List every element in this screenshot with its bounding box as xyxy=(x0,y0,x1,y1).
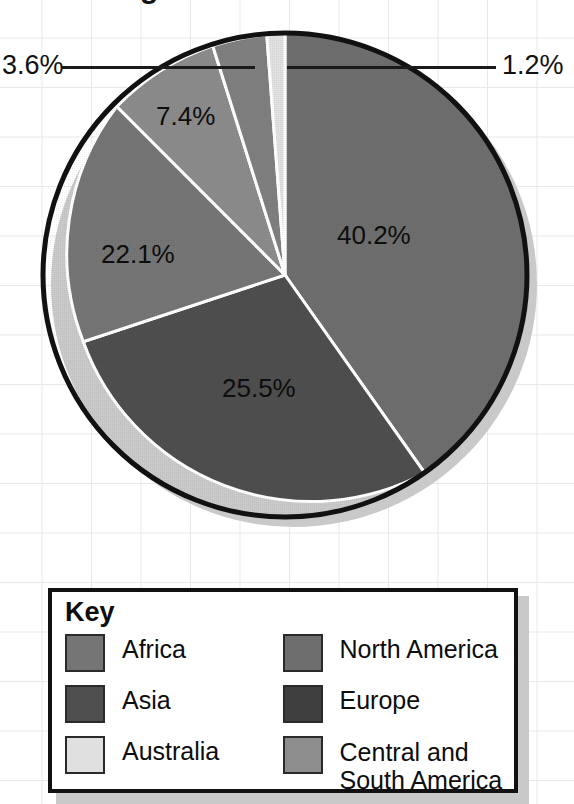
legend: Key Africa Asia Australia North America xyxy=(48,588,518,793)
legend-label-central-south-america: Central andSouth America xyxy=(340,735,503,794)
legend-item-australia[interactable]: Australia xyxy=(65,735,283,777)
pie-label-asia: 7.4% xyxy=(156,101,215,132)
legend-swatch-australia xyxy=(65,736,105,774)
legend-swatch-africa xyxy=(65,634,105,672)
leader-line-australia xyxy=(287,66,496,69)
legend-item-africa[interactable]: Africa xyxy=(65,633,283,675)
legend-item-north-america[interactable]: North America xyxy=(283,633,514,675)
chart-title: ...g ross national income xyxy=(0,0,574,5)
pie-label-australia: 1.2% xyxy=(502,50,564,81)
legend-swatch-central-south-america xyxy=(283,736,323,774)
legend-title: Key xyxy=(65,598,514,626)
legend-swatch-asia xyxy=(65,685,105,723)
legend-label-asia: Asia xyxy=(122,684,171,714)
legend-swatch-north-america xyxy=(283,634,323,672)
legend-column-left: Africa Asia Australia xyxy=(65,633,283,803)
legend-swatch-europe xyxy=(283,685,323,723)
legend-label-central-line2: South America xyxy=(340,766,503,794)
legend-label-australia: Australia xyxy=(122,735,219,765)
legend-item-europe[interactable]: Europe xyxy=(283,684,514,726)
legend-label-central-line1: Central and xyxy=(340,738,469,766)
legend-label-north-america: North America xyxy=(340,633,498,663)
legend-label-africa: Africa xyxy=(122,633,186,663)
pie-label-europe: 25.5% xyxy=(222,373,296,404)
legend-item-central-south-america[interactable]: Central andSouth America xyxy=(283,735,514,794)
legend-columns: Africa Asia Australia North America Euro… xyxy=(65,633,514,803)
pie-chart xyxy=(0,0,574,560)
pie-label-north-america: 40.2% xyxy=(337,220,411,251)
legend-column-right: North America Europe Central andSouth Am… xyxy=(283,633,514,803)
legend-label-europe: Europe xyxy=(340,684,421,714)
pie-label-africa: 22.1% xyxy=(101,239,175,270)
leader-line-central-south-america xyxy=(62,66,255,69)
pie-chart-svg xyxy=(0,0,574,560)
legend-item-asia[interactable]: Asia xyxy=(65,684,283,726)
pie-label-central-south-america: 3.6% xyxy=(2,50,64,81)
